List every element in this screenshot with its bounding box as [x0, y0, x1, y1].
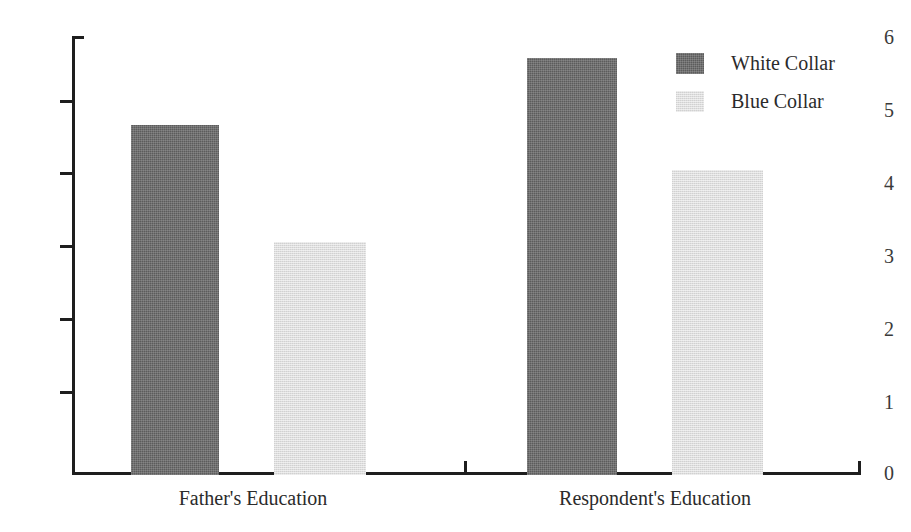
y-axis-tick-4 [60, 172, 74, 175]
y-axis-tick-5 [60, 100, 74, 103]
y-axis-label-0: 0 [867, 463, 911, 483]
blue-collar-swatch-icon [676, 91, 704, 112]
x-axis-tick-right-end [858, 461, 861, 473]
legend-item-blue-collar[interactable]: Blue Collar [676, 82, 896, 120]
legend-item-white-collar[interactable]: White Collar [676, 44, 896, 82]
y-axis-tick-1 [60, 391, 74, 394]
bar-chart: 6 5 4 3 2 1 0 Father's Education Respond… [0, 0, 911, 532]
y-axis-label-3: 3 [867, 246, 911, 266]
legend: White Collar Blue Collar [676, 44, 896, 120]
y-axis-label-1: 1 [867, 392, 911, 412]
white-collar-swatch-icon [676, 53, 704, 74]
y-axis-tick-2 [60, 318, 74, 321]
bar-fathers-education-white-collar [131, 125, 219, 475]
y-axis-label-4: 4 [867, 173, 911, 193]
bar-fathers-education-blue-collar [274, 242, 366, 475]
bar-respondents-education-white-collar [527, 58, 617, 475]
bar-respondents-education-blue-collar [672, 170, 763, 475]
legend-label-white-collar: White Collar [731, 52, 835, 74]
x-axis-tick-group-separator [464, 461, 467, 473]
legend-label-blue-collar: Blue Collar [731, 90, 824, 112]
y-axis-tick-3 [60, 245, 74, 248]
y-axis-label-2: 2 [867, 319, 911, 339]
plot-area: 6 5 4 3 2 1 0 Father's Education Respond… [0, 0, 911, 532]
x-axis-group-label-respondents-education: Respondent's Education [510, 486, 800, 510]
x-axis-group-label-fathers-education: Father's Education [128, 486, 378, 510]
y-axis-tick-6 [72, 36, 84, 39]
